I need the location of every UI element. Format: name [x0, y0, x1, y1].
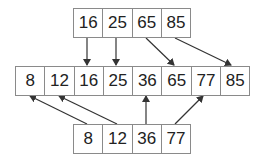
array-cell: 25 [104, 67, 133, 95]
array-cell: 16 [74, 9, 103, 37]
array-cell: 77 [192, 67, 221, 95]
bottom-array: 8 12 36 77 [73, 124, 191, 154]
arrow-bottom-12 [59, 96, 117, 124]
array-cell: 8 [16, 67, 45, 95]
arrow-bottom-8 [30, 96, 87, 124]
array-cell: 25 [103, 9, 132, 37]
array-cell: 65 [133, 9, 162, 37]
arrow-bottom-77 [175, 96, 203, 124]
merged-array: 8 12 16 25 36 65 77 85 [15, 66, 250, 96]
array-cell: 36 [133, 67, 162, 95]
array-cell: 77 [162, 125, 190, 153]
arrow-top-85 [175, 38, 231, 65]
array-cell: 85 [221, 67, 249, 95]
array-cell: 36 [133, 125, 162, 153]
arrow-top-65 [146, 38, 174, 65]
array-cell: 65 [162, 67, 191, 95]
array-cell: 16 [75, 67, 104, 95]
top-array: 16 25 65 85 [73, 8, 191, 38]
array-cell: 12 [45, 67, 74, 95]
array-cell: 85 [162, 9, 190, 37]
array-cell: 12 [103, 125, 132, 153]
array-cell: 8 [74, 125, 103, 153]
